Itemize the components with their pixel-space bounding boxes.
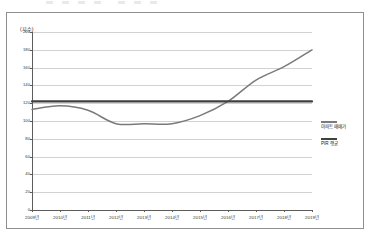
scan-artifact-mark [46,1,53,4]
scan-artifact-mark [62,1,69,4]
chart-figure: (지수) 200180160140120100806040200 2009년20… [0,0,371,243]
y-tick-label: 120 [23,101,30,105]
scan-artifact-mark [134,1,141,4]
x-tick-label: 2015년 [193,216,207,220]
y-tick-label: 60 [25,154,30,158]
scan-artifact-mark [118,1,125,4]
legend-swatch [321,138,337,140]
y-tick-label: 200 [23,30,30,34]
chart-frame: (지수) 200180160140120100806040200 2009년20… [6,12,364,229]
x-tick-label: 2009년 [25,216,39,220]
x-tick-label: 2014년 [165,216,179,220]
x-tick-mark [32,210,33,212]
scan-artifact-mark [78,1,85,4]
scan-artifact-mark [150,1,157,4]
y-tick-label: 160 [23,65,30,69]
x-tick-mark [172,210,173,212]
chart-legend: 아파트 매매가PIR 평균 [321,121,371,154]
x-tick-label: 2019년 [305,216,319,220]
x-tick-mark [88,210,89,212]
y-tick-label: 180 [23,48,30,52]
scan-artifact-mark [94,1,101,4]
x-tick-label: 2010년 [53,216,67,220]
y-tick-label: 0 [28,208,30,212]
legend-label: PIR 평균 [321,142,371,147]
scan-artifact [46,1,164,5]
y-tick-label: 100 [23,119,30,123]
x-tick-label: 2011년 [81,216,94,220]
legend-item: 아파트 매매가 [321,121,371,130]
y-tick-label: 140 [23,83,30,87]
legend-item: PIR 평균 [321,138,371,147]
y-tick-label: 40 [25,172,30,176]
series-line [32,50,312,125]
legend-swatch [321,121,337,123]
x-tick-mark [116,210,117,212]
x-tick-label: 2017년 [249,216,263,220]
x-tick-mark [312,210,313,212]
legend-label: 아파트 매매가 [321,125,371,130]
y-axis-labels: 200180160140120100806040200 [7,32,30,210]
x-tick-mark [200,210,201,212]
x-tick-label: 2018년 [277,216,291,220]
x-tick-mark [256,210,257,212]
x-tick-label: 2012년 [109,216,123,220]
x-tick-mark [228,210,229,212]
x-tick-label: 2013년 [137,216,151,220]
x-tick-mark [60,210,61,212]
y-tick-label: 20 [25,190,30,194]
x-axis-ticks [32,210,312,213]
x-axis-labels: 2009년2010년2011년2012년2013년2014년2015년2016년… [32,216,312,228]
series-lines [32,32,312,210]
x-tick-mark [144,210,145,212]
x-tick-mark [284,210,285,212]
y-tick-label: 80 [25,137,30,141]
x-tick-label: 2016년 [221,216,235,220]
